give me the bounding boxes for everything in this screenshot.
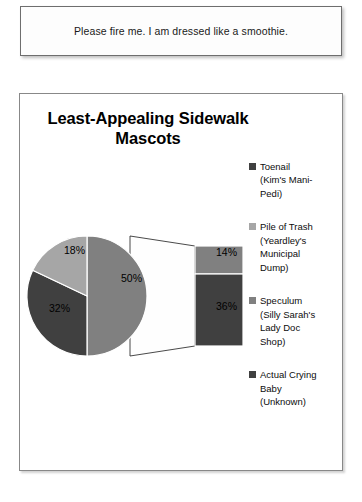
legend-item-label: Pile of Trash (Yeardley's Municipal Dump… bbox=[260, 220, 313, 274]
legend-item-toenail: Toenail (Kim's Mani- Pedi) bbox=[249, 160, 337, 200]
caption-box: Please fire me. I am dressed like a smoo… bbox=[20, 6, 342, 56]
legend-item-actual-crying-baby: Actual Crying Baby (Unknown) bbox=[249, 368, 337, 408]
legend-swatch-icon bbox=[249, 297, 256, 304]
caption-text: Please fire me. I am dressed like a smoo… bbox=[74, 25, 288, 38]
legend-item-speculum: Speculum (Silly Sarah's Lady Doc Shop) bbox=[249, 294, 337, 348]
chart-plot-area: 50% 32% 18% 14% 36% bbox=[20, 224, 264, 374]
legend-swatch-icon bbox=[249, 223, 256, 230]
legend-item-pile-of-trash: Pile of Trash (Yeardley's Municipal Dump… bbox=[249, 220, 337, 274]
legend-item-label: Speculum (Silly Sarah's Lady Doc Shop) bbox=[260, 294, 315, 348]
chart-legend: Toenail (Kim's Mani- Pedi) Pile of Trash… bbox=[249, 160, 337, 429]
legend-swatch-icon bbox=[249, 371, 256, 378]
legend-item-label: Toenail (Kim's Mani- Pedi) bbox=[260, 160, 312, 200]
chart-card: Least-Appealing Sidewalk Mascots 50% 32%… bbox=[19, 93, 343, 471]
bar-label-36: 36% bbox=[216, 300, 237, 312]
legend-item-label: Actual Crying Baby (Unknown) bbox=[260, 368, 317, 408]
pie-label-50: 50% bbox=[121, 272, 142, 284]
pie-label-32: 32% bbox=[49, 302, 70, 314]
chart-title: Least-Appealing Sidewalk Mascots bbox=[28, 108, 268, 148]
bar-label-14: 14% bbox=[216, 246, 237, 258]
legend-swatch-icon bbox=[249, 163, 256, 170]
pie-label-18: 18% bbox=[64, 244, 85, 256]
